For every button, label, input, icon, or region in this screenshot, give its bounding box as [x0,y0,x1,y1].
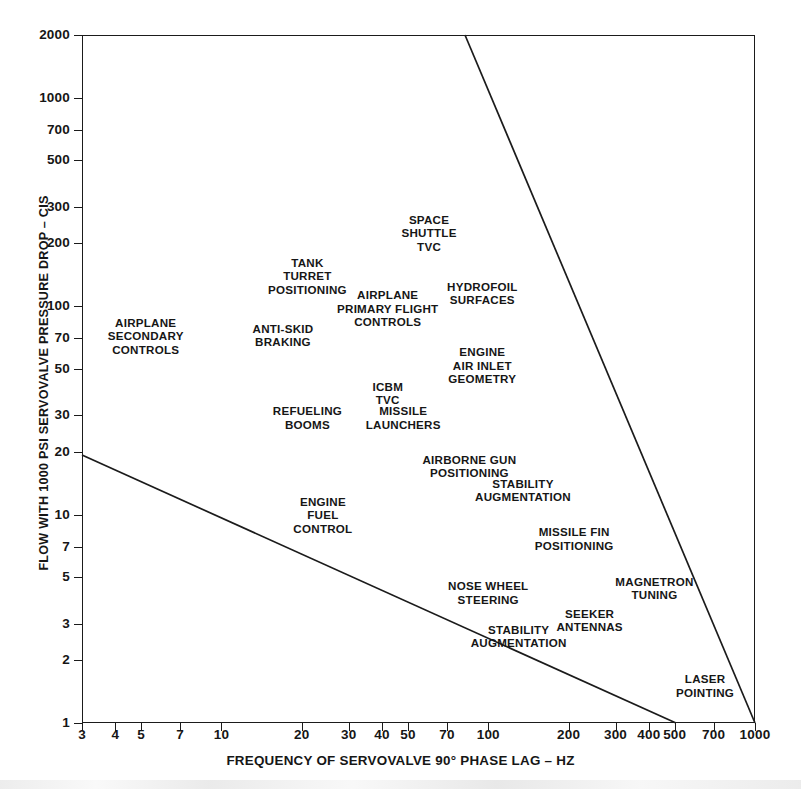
y-tick-mark [74,207,83,208]
y-tick-mark [74,243,83,244]
servovalve-application-chart: 12357102030507010020030050070010002000 3… [0,0,801,793]
label-airplane-primary-flight-controls: AIRPLANE PRIMARY FLIGHT CONTROLS [337,288,438,329]
label-space-shuttle-tvc: SPACE SHUTTLE TVC [401,212,456,253]
label-missile-launchers: MISSILE LAUNCHERS [366,405,441,432]
label-missile-fin-positioning: MISSILE FIN POSITIONING [535,526,614,553]
y-axis-title: FLOW WITH 1000 PSI SERVOVALVE PRESSURE D… [37,53,51,713]
label-laser-pointing: LASER POINTING [676,673,734,700]
plot-frame [82,35,755,723]
y-tick-mark [74,130,83,131]
y-tick-mark [74,306,83,307]
y-tick-mark [74,660,83,661]
y-tick-mark [74,415,83,416]
label-magnetron-tuning: MAGNETRON TUNING [615,575,693,602]
label-stability-augmentation-upper: STABILITY AUGMENTATION [475,477,571,504]
x-tick-label: 100 [458,728,518,742]
label-refueling-booms: REFUELING BOOMS [273,405,342,432]
label-engine-fuel-control: ENGINE FUEL CONTROL [293,494,352,535]
label-tank-turret-positioning: TANK TURRET POSITIONING [268,255,347,296]
label-icbm-tvc: ICBM TVC [372,380,403,407]
label-stability-augmentation-lower: STABILITY AUGMENTATION [471,623,567,650]
y-tick-mark [74,547,83,548]
label-airplane-secondary-controls: AIRPLANE SECONDARY CONTROLS [108,316,184,357]
y-tick-mark [74,515,83,516]
label-engine-air-inlet-geometry: ENGINE AIR INLET GEOMETRY [448,345,516,386]
page-edge-artifact [0,780,801,789]
y-tick-mark [74,577,83,578]
x-axis-title: FREQUENCY OF SERVOVALVE 90° PHASE LAG – … [0,753,801,768]
label-airborne-gun-positioning: AIRBORNE GUN POSITIONING [422,453,516,480]
y-tick-mark [74,160,83,161]
x-tick-label: 10 [191,728,251,742]
label-anti-skid-braking: ANTI-SKID BRAKING [253,322,314,349]
y-tick-mark [74,338,83,339]
x-tick-label: 1000 [725,728,785,742]
label-nose-wheel-steering: NOSE WHEEL STEERING [448,580,528,607]
y-tick-label: 2000 [14,28,70,42]
y-tick-mark [74,98,83,99]
label-hydrofoil-surfaces: HYDROFOIL SURFACES [447,280,518,307]
y-tick-mark [74,369,83,370]
y-tick-mark [74,624,83,625]
y-tick-mark [74,452,83,453]
y-tick-mark [74,35,83,36]
